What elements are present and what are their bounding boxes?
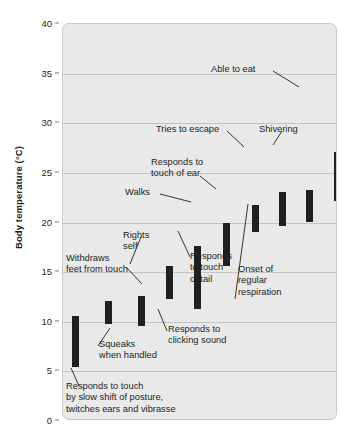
gridline (63, 223, 336, 224)
y-tick-mark (55, 271, 59, 272)
annotation-walks: Walks (125, 187, 150, 198)
y-tick-label: 30 (41, 117, 52, 128)
y-tick-mark (55, 320, 59, 321)
range-bar (334, 152, 337, 201)
y-tick-mark (55, 221, 59, 222)
annotation-onset-respiration: Onset of regular respiration (238, 264, 281, 298)
y-tick-label: 5 (47, 365, 52, 376)
leader-responds-touch-tail (178, 231, 190, 257)
annotation-withdraws-feet: Withdraws feet from touch (66, 253, 128, 276)
gridline (63, 74, 336, 75)
leader-walks (160, 194, 191, 202)
y-tick-label: 20 (41, 216, 52, 227)
y-tick-mark (55, 72, 59, 73)
leader-tries-to-escape (227, 131, 244, 147)
y-tick-mark (55, 370, 59, 371)
leader-responds-clicking (158, 309, 167, 331)
plot-area: Able to eat Tries to escape Shivering Re… (62, 23, 337, 420)
annotation-responds-touch-tail: Responds to touch of tail (190, 251, 232, 285)
y-tick-label: 25 (41, 166, 52, 177)
y-tick-mark (55, 23, 59, 24)
annotation-responds-clicking: Responds to clicking sound (168, 324, 226, 347)
y-tick-mark (55, 122, 59, 123)
leader-withdraws-feet (126, 267, 142, 284)
y-tick-label: 35 (41, 67, 52, 78)
range-bar (166, 266, 173, 299)
range-bar (252, 205, 259, 233)
chart-root: Body temperature (°C) 40 35 30 25 20 15 … (0, 0, 352, 444)
annotation-responds-touch-posture: Responds to touch by slow shift of postu… (66, 381, 176, 415)
y-tick-label: 40 (41, 18, 52, 29)
range-bar (105, 301, 112, 324)
y-tick-mark (55, 171, 59, 172)
y-axis-ticks: 40 35 30 25 20 15 10 5 0 (0, 0, 62, 444)
y-tick-label: 15 (41, 266, 52, 277)
gridline (63, 322, 336, 323)
range-bar (138, 296, 145, 326)
annotation-able-to-eat: Able to eat (211, 64, 255, 75)
annotation-rights-self: Rights self (123, 230, 149, 253)
range-bar (279, 192, 286, 227)
range-bar (306, 190, 313, 223)
y-tick-mark (55, 420, 59, 421)
y-tick-label: 10 (41, 315, 52, 326)
annotation-responds-touch-ear: Responds to touch of ear (151, 157, 203, 180)
annotation-shivering: Shivering (259, 124, 298, 135)
annotation-squeaks: Squeaks when handled (99, 339, 157, 362)
annotation-tries-to-escape: Tries to escape (156, 124, 219, 135)
y-tick-label: 0 (47, 415, 52, 426)
range-bar (72, 316, 79, 368)
gridline (63, 371, 336, 372)
